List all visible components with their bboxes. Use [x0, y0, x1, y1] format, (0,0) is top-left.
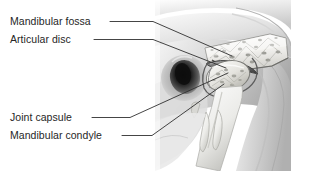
label-joint-capsule: Joint capsule: [10, 111, 72, 123]
label-mandibular-fossa: Mandibular fossa: [10, 15, 91, 27]
figure-canvas: Mandibular fossa Articular disc Joint ca…: [0, 0, 309, 171]
illustration-left-fade: [155, 0, 160, 171]
label-articular-disc: Articular disc: [10, 33, 71, 45]
illustration: [155, 0, 291, 171]
label-mandibular-condyle: Mandibular condyle: [10, 129, 102, 141]
tmj-anatomy-figure: Mandibular fossa Articular disc Joint ca…: [0, 0, 309, 171]
